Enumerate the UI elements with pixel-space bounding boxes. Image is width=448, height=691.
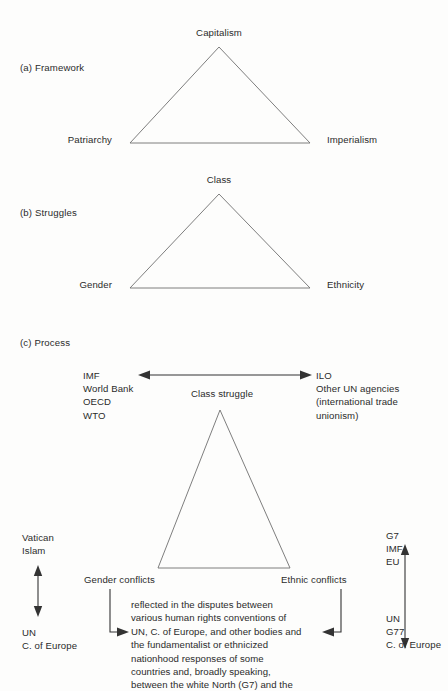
- process-top-right-institutions: ILO Other UN agencies (international tra…: [316, 369, 399, 422]
- process-left-upper-actors: Vatican Islam: [22, 531, 54, 557]
- framework-right-label: Imperialism: [327, 134, 377, 147]
- gender-conflicts-label: Gender conflicts: [84, 574, 155, 587]
- framework-triangle: [130, 47, 310, 143]
- section-label-process: (c) Process: [20, 337, 70, 348]
- class-struggle-label: Class struggle: [191, 388, 253, 401]
- process-triangle: [158, 410, 290, 568]
- struggles-apex-label: Class: [207, 174, 232, 187]
- process-right-upper-actors: G7 IMF EU: [386, 529, 403, 569]
- framework-left-label: Patriarchy: [14, 134, 112, 147]
- process-center-paragraph: reflected in the disputes between variou…: [131, 598, 336, 691]
- process-right-lower-actors: UN G77 C. of Europe: [386, 612, 441, 652]
- struggles-left-label: Gender: [24, 279, 112, 292]
- section-label-struggles: (b) Struggles: [20, 207, 77, 218]
- struggles-triangle: [130, 194, 310, 288]
- class-struggle-arrow: [138, 371, 312, 380]
- left-vertical-arrow: [34, 565, 42, 617]
- process-top-left-institutions: IMF World Bank OECD WTO: [83, 369, 133, 422]
- process-left-lower-actors: UN C. of Europe: [22, 626, 77, 652]
- gender-conflicts-elbow-arrow: [110, 589, 129, 637]
- framework-apex-label: Capitalism: [196, 27, 242, 40]
- section-label-framework: (a) Framework: [20, 62, 84, 73]
- figure-canvas: (a) Framework Capitalism Patriarchy Impe…: [0, 0, 448, 691]
- ethnic-conflicts-label: Ethnic conflicts: [281, 574, 347, 587]
- struggles-right-label: Ethnicity: [327, 279, 364, 292]
